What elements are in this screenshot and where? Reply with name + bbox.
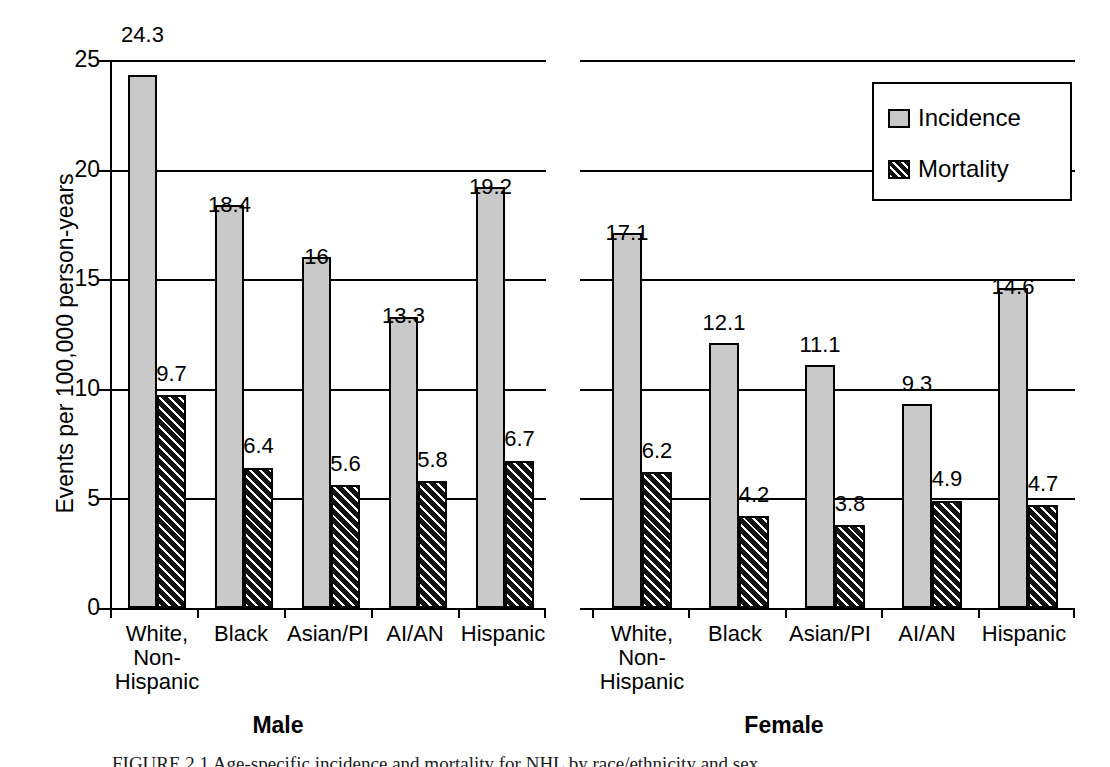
female-category-label-hispanic: Hispanic: [972, 622, 1076, 646]
bar-female-black-mortality[interactable]: [739, 516, 769, 608]
y-tick-label-25: 25: [54, 48, 100, 71]
female-y-tickmark-15: [580, 279, 592, 281]
female-gridline-25: [592, 60, 1075, 62]
female-category-label-black: Black: [690, 622, 780, 646]
female-x-axis: [592, 608, 1075, 610]
bar-male-white-mortality[interactable]: [157, 395, 186, 608]
female-category-label-asian: Asian/PI: [781, 622, 879, 646]
bar-label-female-aian-mortality: 4.9: [917, 468, 977, 490]
male-x-tickmark-2: [284, 608, 286, 618]
bar-male-black-mortality[interactable]: [244, 468, 273, 608]
male-y-tickmark-15: [98, 279, 110, 281]
bar-male-hispanic-mortality[interactable]: [505, 461, 534, 608]
legend-swatch-mortality-icon: [888, 160, 910, 179]
male-y-tickmark-25: [98, 60, 110, 62]
bar-female-asian-mortality[interactable]: [835, 525, 865, 608]
bar-female-asian-incidence[interactable]: [805, 365, 835, 608]
male-category-label-aian: AI/AN: [372, 622, 458, 646]
female-x-tickmark-4: [978, 608, 980, 618]
female-x-tickmark-0: [592, 608, 594, 618]
bar-label-female-white-incidence: 17.1: [597, 222, 657, 244]
female-category-label-white: White, Non- Hispanic: [592, 622, 692, 693]
bar-male-asian-mortality[interactable]: [331, 485, 360, 608]
bar-label-male-hispanic-mortality: 6.7: [490, 428, 549, 450]
male-gridline-20: [110, 170, 546, 172]
bar-female-hispanic-mortality[interactable]: [1028, 505, 1058, 608]
bar-label-female-white-mortality: 6.2: [627, 440, 687, 462]
legend-item-mortality[interactable]: Mortality: [888, 157, 1009, 181]
female-x-tickmark-1: [688, 608, 690, 618]
male-x-tickmark-3: [371, 608, 373, 618]
bar-label-female-aian-incidence: 9.3: [887, 373, 947, 395]
y-tick-label-10: 10: [54, 377, 100, 400]
y-tick-label-15: 15: [54, 267, 100, 290]
female-x-tickmark-3: [881, 608, 883, 618]
y-axis-title: Events per 100,000 person-years: [52, 64, 79, 624]
y-tick-label-0: 0: [54, 596, 100, 619]
female-category-label-aian: AI/AN: [882, 622, 972, 646]
male-category-label-hispanic: Hispanic: [453, 622, 553, 646]
bar-male-hispanic-incidence[interactable]: [476, 187, 505, 608]
female-y-tickmark-5: [580, 498, 592, 500]
legend-item-incidence[interactable]: Incidence: [888, 106, 1021, 130]
bar-label-male-aian-incidence: 13.3: [374, 305, 433, 327]
bar-label-male-black-mortality: 6.4: [229, 435, 288, 457]
male-y-tickmark-10: [98, 389, 110, 391]
male-y-tickmark-20: [98, 170, 110, 172]
bar-label-male-aian-mortality: 5.8: [403, 449, 462, 471]
y-tick-label-5: 5: [54, 487, 100, 510]
bar-male-black-incidence[interactable]: [215, 205, 244, 608]
bar-male-white-incidence[interactable]: [128, 75, 157, 608]
male-category-label-black: Black: [198, 622, 284, 646]
bar-label-male-asian-mortality: 5.6: [316, 453, 375, 475]
figure-caption: FIGURE 2.1 Age-specific incidence and mo…: [112, 752, 1042, 767]
bar-label-male-hispanic-incidence: 19.2: [461, 176, 520, 198]
female-y-tickmark-10: [580, 389, 592, 391]
male-y-tickmark-5: [98, 498, 110, 500]
female-y-tickmark-20: [580, 170, 592, 172]
legend-label-mortality: Mortality: [918, 157, 1009, 181]
bar-male-aian-mortality[interactable]: [418, 481, 447, 608]
male-y-tickmark-0: [98, 608, 110, 610]
legend: Incidence Mortality: [872, 82, 1072, 201]
bar-female-black-incidence[interactable]: [709, 343, 739, 608]
bar-label-male-black-incidence: 18.4: [200, 194, 259, 216]
bar-female-hispanic-incidence[interactable]: [998, 288, 1028, 608]
male-x-tickmark-4: [458, 608, 460, 618]
female-panel-title: Female: [729, 712, 839, 739]
legend-swatch-incidence-icon: [888, 109, 910, 128]
bar-male-asian-incidence[interactable]: [302, 257, 331, 608]
bar-female-white-incidence[interactable]: [612, 233, 642, 608]
panel-male: 24.3 9.7 18.4 6.4 16 5.6 13.3 5.8 19.2 6…: [110, 60, 546, 608]
male-x-axis: [110, 608, 546, 610]
female-y-tickmark-25: [580, 60, 592, 62]
bar-label-female-hispanic-mortality: 4.7: [1013, 473, 1073, 495]
bar-label-male-asian-incidence: 16: [287, 246, 346, 268]
y-tick-label-20: 20: [54, 158, 100, 181]
male-panel-title: Male: [228, 712, 328, 739]
bar-female-white-mortality[interactable]: [642, 472, 672, 608]
female-x-tickmark-2: [785, 608, 787, 618]
bar-female-aian-mortality[interactable]: [932, 501, 962, 608]
bar-label-female-asian-incidence: 11.1: [790, 334, 850, 356]
bar-label-female-black-incidence: 12.1: [694, 312, 754, 334]
bar-label-female-asian-mortality: 3.8: [820, 493, 880, 515]
male-x-tickmark-5: [544, 608, 546, 618]
bar-label-female-hispanic-incidence: 14.6: [983, 276, 1043, 298]
bar-label-male-white-incidence: 24.3: [113, 24, 172, 46]
female-x-tickmark-5: [1073, 608, 1075, 618]
figure-chart: Events per 100,000 person-years 25 20 15…: [0, 0, 1110, 767]
male-category-label-asian: Asian/PI: [282, 622, 374, 646]
bar-label-male-white-mortality: 9.7: [142, 363, 201, 385]
male-x-tickmark-0: [110, 608, 112, 618]
female-y-tickmark-0: [580, 608, 592, 610]
male-category-label-white: White, Non- Hispanic: [107, 622, 207, 693]
male-gridline-25: [110, 60, 546, 62]
bar-label-female-black-mortality: 4.2: [724, 484, 784, 506]
bar-female-aian-incidence[interactable]: [902, 404, 932, 608]
male-x-tickmark-1: [197, 608, 199, 618]
legend-label-incidence: Incidence: [918, 106, 1021, 130]
